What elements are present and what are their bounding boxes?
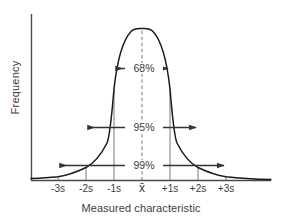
y-axis-label: Frequency: [10, 48, 21, 128]
axes-group: [31, 14, 271, 181]
normal-curve-path: [31, 28, 271, 179]
band-label-95: 95%: [125, 122, 163, 133]
gridlines-group: [58, 29, 226, 181]
x-tick-label-plus3s: +3s: [209, 184, 243, 194]
band-label-68: 68%: [125, 63, 163, 74]
normal-distribution-figure: Frequency Measured characteristic -3s -2…: [0, 0, 282, 224]
band-label-99: 99%: [125, 160, 163, 171]
x-axis-label: Measured characteristic: [0, 203, 282, 214]
